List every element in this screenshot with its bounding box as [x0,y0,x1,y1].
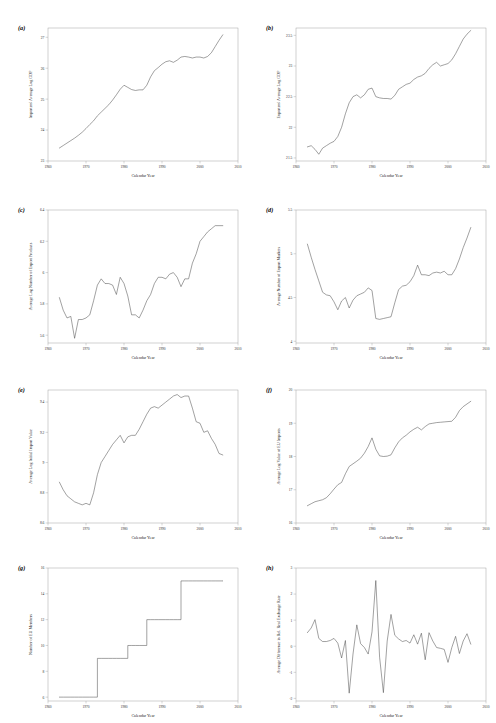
y-tick-label: 4.5 [288,296,293,300]
y-axis-title: Average Difference in Rel. Real Exchange… [276,595,281,673]
y-tick-label: 2 [291,592,293,596]
y-tick-label: 23 [41,159,45,163]
x-tick-label: 1980 [120,527,127,531]
y-tick-label: 8.8 [40,491,45,495]
x-tick-label: 1980 [120,705,127,709]
y-tick-label: 16 [289,521,293,525]
y-tick-label: -2 [289,697,292,701]
plot-frame [296,568,486,701]
plot-frame [48,568,238,701]
x-tick-label: 1990 [406,347,413,351]
y-axis-title: Average Log Number of Export Products [28,242,33,310]
x-tick-label: 2000 [444,705,451,709]
chart-panel-g: (g)6810121416196019701980199020002010Cal… [0,548,248,723]
x-tick-label: 1960 [44,527,51,531]
x-tick-label: 1980 [368,527,375,531]
chart-panel-h: (h)-2-10123196019701980199020002010Calen… [248,548,496,723]
panel-tag: (e) [18,386,25,394]
y-tick-label: 6.2 [40,240,45,244]
y-tick-label: 16 [41,566,45,570]
data-series-line [307,30,470,154]
y-tick-label: 3 [291,566,293,570]
plot-frame [48,390,238,523]
y-tick-label: 23 [289,64,293,68]
chart-panel-f: (f)1617181920196019701980199020002010Cal… [248,370,496,550]
data-series-line [59,226,222,339]
chart-panel-e: (e)8.68.899.29.4196019701980199020002010… [0,370,248,550]
x-tick-label: 2000 [196,165,203,169]
x-tick-label: 1970 [330,705,337,709]
x-axis-title: Calendar Year [131,355,155,360]
y-tick-label: 23.5 [286,34,292,38]
y-tick-label: 26 [41,67,45,71]
y-axis-title: Average Number of Export Markets [276,247,281,306]
y-tick-label: 14 [41,592,45,596]
data-series-line [59,35,222,148]
plot-frame [296,28,486,161]
x-tick-label: 2000 [196,705,203,709]
x-axis-title: Calendar Year [131,535,155,540]
x-tick-label: 2000 [196,347,203,351]
x-tick-label: 1960 [292,527,299,531]
x-tick-label: 2000 [444,165,451,169]
x-tick-label: 1970 [330,527,337,531]
x-tick-label: 1960 [44,705,51,709]
y-tick-label: 21.5 [286,156,292,160]
x-tick-label: 1960 [292,705,299,709]
y-tick-label: 5 [291,252,293,256]
panel-tag: (a) [18,24,25,32]
y-tick-label: 1 [291,619,293,623]
chart-panel-c: (c)5.65.866.26.4196019701980199020002010… [0,190,248,370]
panel-tag: (c) [18,206,25,214]
x-tick-label: 2010 [234,705,241,709]
y-axis-title: Average Log Value of EU Imports [276,428,281,485]
y-tick-label: 4 [291,340,293,344]
panel-tag: (d) [266,206,273,214]
x-tick-label: 1970 [330,347,337,351]
x-tick-label: 1980 [368,165,375,169]
y-tick-label: 5.8 [40,302,45,306]
x-tick-label: 1970 [82,347,89,351]
x-tick-label: 2010 [482,347,489,351]
x-tick-label: 2000 [196,527,203,531]
x-tick-label: 1970 [82,165,89,169]
x-tick-label: 1990 [406,705,413,709]
y-tick-label: 19 [289,422,293,426]
x-tick-label: 2010 [234,165,241,169]
x-tick-label: 1980 [120,165,127,169]
x-tick-label: 1990 [158,705,165,709]
y-tick-label: 10 [41,644,45,648]
chart-panel-a: (a)2324252627196019701980199020002010Cal… [0,8,248,188]
data-series-line [59,581,222,697]
y-tick-label: 27 [41,36,45,40]
x-axis-title: Calendar Year [131,173,155,178]
y-axis-title: Exporters' Average Log GDP [276,70,281,119]
x-axis-title: Calendar Year [379,713,403,718]
x-tick-label: 1980 [120,347,127,351]
x-tick-label: 2000 [444,527,451,531]
plot-frame [48,210,238,343]
plot-frame [296,390,486,523]
plot-frame [48,28,238,161]
chart-panel-d: (d)44.555.5196019701980199020002010Calen… [248,190,496,370]
data-series-line [307,581,470,694]
x-tick-label: 2000 [444,347,451,351]
x-tick-label: 1990 [406,527,413,531]
y-tick-label: 9 [43,461,45,465]
y-axis-title: Average Log Initial Import Value [28,429,33,484]
panel-tag: (h) [266,564,274,572]
multi-panel-figure: (a)2324252627196019701980199020002010Cal… [0,0,496,723]
y-tick-label: 9.2 [40,431,45,435]
y-tick-label: 5.6 [40,334,45,338]
x-tick-label: 1980 [368,705,375,709]
y-tick-label: 6.4 [40,208,45,212]
x-tick-label: 2010 [234,347,241,351]
y-tick-label: 12 [41,618,45,622]
x-tick-label: 1970 [330,165,337,169]
x-tick-label: 1980 [368,347,375,351]
x-axis-title: Calendar Year [379,535,403,540]
panel-tag: (b) [266,24,273,32]
y-tick-label: 5.5 [288,208,293,212]
y-tick-label: 20 [289,388,293,392]
y-tick-label: 8 [43,670,45,674]
